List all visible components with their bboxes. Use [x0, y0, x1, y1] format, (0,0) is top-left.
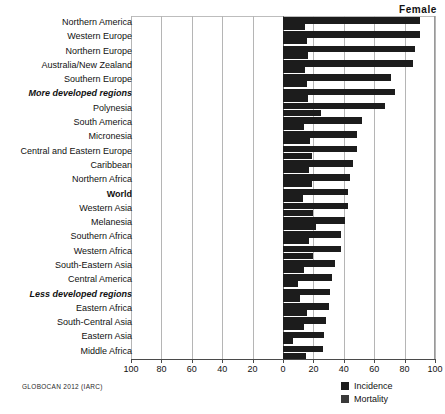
- category-label: Eastern Africa: [76, 303, 132, 314]
- bar-row: South-Eastern Asia: [0, 259, 445, 275]
- bar-incidence: [283, 17, 420, 24]
- category-label: Caribbean: [90, 160, 132, 171]
- bar-row: Western Europe: [0, 30, 445, 46]
- legend-item-incidence: Incidence: [341, 379, 437, 392]
- category-label: Eastern Asia: [81, 331, 132, 342]
- bar-incidence: [283, 174, 350, 181]
- bar-incidence: [283, 46, 415, 53]
- legend-item-mortality: Mortality: [341, 392, 437, 405]
- bar-mortality: [283, 253, 313, 259]
- category-label: Western Africa: [74, 246, 132, 257]
- bar-row: Western Asia: [0, 202, 445, 218]
- category-label: Polynesia: [93, 103, 132, 114]
- x-tick-label: 20: [308, 364, 318, 374]
- bar-row: Melanesia: [0, 216, 445, 232]
- category-label: Central and Eastern Europe: [20, 146, 132, 157]
- bar-mortality: [283, 238, 309, 244]
- bar-incidence: [283, 189, 348, 196]
- bar-mortality: [283, 210, 313, 216]
- bar-mortality: [283, 167, 309, 173]
- category-label: Northern America: [62, 17, 132, 28]
- bar-mortality: [283, 52, 308, 58]
- legend-swatch-mortality-icon: [341, 395, 349, 403]
- legend-label-mortality: Mortality: [354, 394, 388, 404]
- category-label: Melanesia: [91, 217, 132, 228]
- bar-incidence: [283, 274, 332, 281]
- category-label: Western Asia: [79, 203, 132, 214]
- bar-row: Less developed regions: [0, 288, 445, 304]
- category-label: Middle Africa: [80, 346, 132, 357]
- bar-mortality: [283, 181, 312, 187]
- bar-incidence: [283, 303, 329, 310]
- x-tick-label: 100: [123, 364, 138, 374]
- bar-incidence: [283, 117, 362, 124]
- bar-row: Northern America: [0, 16, 445, 32]
- category-label: Southern Europe: [64, 74, 132, 85]
- bar-incidence: [283, 231, 341, 238]
- bar-mortality: [283, 153, 312, 159]
- bar-mortality: [283, 267, 304, 273]
- category-label: South America: [73, 117, 132, 128]
- bar-incidence: [283, 260, 335, 267]
- x-tick-label: 80: [400, 364, 410, 374]
- category-label: South-Eastern Asia: [55, 260, 132, 271]
- category-label: More developed regions: [28, 88, 132, 99]
- bar-incidence: [283, 332, 324, 339]
- bar-mortality: [283, 24, 305, 30]
- x-tick-label: 40: [339, 364, 349, 374]
- bar-mortality: [283, 338, 293, 344]
- bar-row: Eastern Africa: [0, 302, 445, 318]
- category-label: Less developed regions: [29, 289, 132, 300]
- bar-incidence: [283, 203, 348, 210]
- bar-incidence: [283, 346, 323, 353]
- category-label: Central America: [68, 274, 132, 285]
- bar-row: Polynesia: [0, 102, 445, 118]
- category-label: Northern Europe: [65, 46, 132, 57]
- x-tick-label: 40: [217, 364, 227, 374]
- x-tick-label: 20: [248, 364, 258, 374]
- bar-row: Central and Eastern Europe: [0, 145, 445, 161]
- bar-mortality: [283, 67, 305, 73]
- bar-mortality: [283, 310, 307, 316]
- bar-incidence: [283, 31, 420, 38]
- bar-incidence: [283, 74, 391, 81]
- bar-mortality: [283, 195, 303, 201]
- chart-title: Female: [399, 4, 437, 15]
- x-tick-label: 60: [187, 364, 197, 374]
- bar-mortality: [283, 81, 307, 87]
- bar-incidence: [283, 103, 385, 110]
- bar-row: Northern Africa: [0, 173, 445, 189]
- legend: Incidence Mortality: [341, 379, 437, 405]
- bar-row: Micronesia: [0, 130, 445, 146]
- bar-row: Eastern Asia: [0, 330, 445, 346]
- bar-mortality: [283, 95, 308, 101]
- bar-incidence: [283, 246, 341, 253]
- category-label: Western Europe: [67, 31, 132, 42]
- bar-row: Northern Europe: [0, 45, 445, 61]
- bar-incidence: [283, 146, 357, 153]
- source-note: GLOBOCAN 2012 (IARC): [22, 383, 103, 390]
- bar-mortality: [283, 110, 321, 116]
- bar-incidence: [283, 289, 330, 296]
- legend-swatch-incidence-icon: [341, 382, 349, 390]
- bar-incidence: [283, 131, 357, 138]
- category-label: World: [107, 189, 132, 200]
- bar-row: More developed regions: [0, 87, 445, 103]
- chart-container: Female 10080604020020406080100 Northern …: [0, 0, 445, 414]
- legend-label-incidence: Incidence: [354, 381, 393, 391]
- category-label: Southern Africa: [70, 231, 132, 242]
- bar-mortality: [283, 353, 306, 359]
- bar-incidence: [283, 160, 353, 167]
- category-label: Northern Africa: [72, 174, 132, 185]
- bar-row: South America: [0, 116, 445, 132]
- bar-row: Australia/New Zealand: [0, 59, 445, 75]
- bar-mortality: [283, 38, 307, 44]
- bar-mortality: [283, 295, 300, 301]
- bar-mortality: [283, 324, 304, 330]
- bar-incidence: [283, 317, 326, 324]
- bar-row: Middle Africa: [0, 345, 445, 361]
- bar-row: South-Central Asia: [0, 316, 445, 332]
- bar-row: Caribbean: [0, 159, 445, 175]
- bar-mortality: [283, 138, 310, 144]
- bar-incidence: [283, 89, 395, 96]
